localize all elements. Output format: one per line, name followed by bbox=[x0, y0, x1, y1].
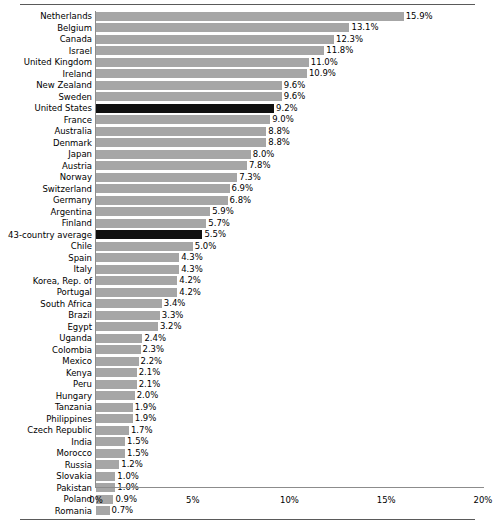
bar-value-label: 9.6% bbox=[282, 91, 306, 103]
bar-track: 9.6% bbox=[96, 81, 495, 92]
chart-row: South Africa3.4% bbox=[0, 299, 495, 311]
bar bbox=[96, 138, 266, 147]
bar-track: 1.5% bbox=[96, 449, 495, 460]
bar bbox=[96, 161, 247, 170]
bar-track: 10.9% bbox=[96, 69, 495, 80]
bar-track: 7.3% bbox=[96, 173, 495, 184]
bar bbox=[96, 115, 270, 124]
bar-track: 3.3% bbox=[96, 311, 495, 322]
bar bbox=[96, 92, 282, 101]
bar-track: 2.1% bbox=[96, 380, 495, 391]
bar-value-label: 5.0% bbox=[193, 241, 217, 253]
bar-value-label: 9.2% bbox=[274, 103, 298, 115]
bar bbox=[96, 357, 139, 366]
category-label: Tanzania bbox=[0, 402, 96, 414]
bar-track: 3.4% bbox=[96, 299, 495, 310]
bar-track: 9.0% bbox=[96, 115, 495, 126]
bar bbox=[96, 150, 251, 159]
bar-value-label: 3.3% bbox=[160, 310, 184, 322]
bar bbox=[96, 207, 210, 216]
chart-row: Australia8.8% bbox=[0, 126, 495, 138]
bar-track: 2.4% bbox=[96, 334, 495, 345]
category-label: Philippines bbox=[0, 414, 96, 426]
chart-row: Argentina5.9% bbox=[0, 207, 495, 219]
chart-row: India1.5% bbox=[0, 437, 495, 449]
x-axis-line bbox=[95, 487, 484, 488]
bar-track: 6.9% bbox=[96, 184, 495, 195]
category-label: Italy bbox=[0, 264, 96, 276]
chart-row: Kenya2.1% bbox=[0, 368, 495, 380]
bar-value-label: 1.0% bbox=[115, 471, 139, 483]
bar-track: 4.2% bbox=[96, 276, 495, 287]
chart-row: Mexico2.2% bbox=[0, 356, 495, 368]
bar-value-label: 8.8% bbox=[266, 137, 290, 149]
bar-track: 2.3% bbox=[96, 345, 495, 356]
bar-value-label: 2.1% bbox=[137, 367, 161, 379]
top-divider-rule bbox=[20, 4, 475, 5]
category-label: Portugal bbox=[0, 287, 96, 299]
bar-track: 15.9% bbox=[96, 12, 495, 23]
category-label: Ireland bbox=[0, 69, 96, 81]
category-label: Switzerland bbox=[0, 184, 96, 196]
category-label: Spain bbox=[0, 253, 96, 265]
bottom-divider-rule bbox=[20, 519, 475, 520]
x-tick-label: 5% bbox=[186, 493, 200, 507]
category-label: South Africa bbox=[0, 299, 96, 311]
bar bbox=[96, 449, 125, 458]
bar bbox=[96, 380, 137, 389]
bar-track: 9.2% bbox=[96, 104, 495, 115]
bar-track: 13.1% bbox=[96, 23, 495, 34]
category-label: Korea, Rep. of bbox=[0, 276, 96, 288]
bar-track: 8.8% bbox=[96, 138, 495, 149]
bar bbox=[96, 276, 177, 285]
category-label: Argentina bbox=[0, 207, 96, 219]
bar-track: 6.8% bbox=[96, 196, 495, 207]
chart-row: Slovakia1.0% bbox=[0, 471, 495, 483]
bar bbox=[96, 334, 142, 343]
category-label: Chile bbox=[0, 241, 96, 253]
chart-row: Italy4.3% bbox=[0, 264, 495, 276]
bar bbox=[96, 242, 193, 251]
bar-value-label: 6.9% bbox=[230, 183, 254, 195]
category-label: Australia bbox=[0, 126, 96, 138]
bar-value-label: 1.5% bbox=[125, 436, 149, 448]
bar bbox=[96, 196, 228, 205]
bar bbox=[96, 35, 334, 44]
chart-row: Ireland10.9% bbox=[0, 69, 495, 81]
bar-value-label: 2.2% bbox=[139, 356, 163, 368]
bar-track: 12.3% bbox=[96, 35, 495, 46]
bar-value-label: 1.9% bbox=[133, 402, 157, 414]
category-label: Russia bbox=[0, 460, 96, 472]
bar-track: 11.8% bbox=[96, 46, 495, 57]
bar-value-label: 3.2% bbox=[158, 321, 182, 333]
category-label: United States bbox=[0, 103, 96, 115]
chart-row: Austria7.8% bbox=[0, 161, 495, 173]
category-label: Germany bbox=[0, 195, 96, 207]
bar-value-label: 12.3% bbox=[334, 34, 363, 46]
chart-row: Israel11.8% bbox=[0, 46, 495, 58]
category-label: Egypt bbox=[0, 322, 96, 334]
bar bbox=[96, 437, 125, 446]
bar-track: 11.0% bbox=[96, 58, 495, 69]
bar-track: 1.7% bbox=[96, 426, 495, 437]
category-label: Uganda bbox=[0, 333, 96, 345]
bar-value-label: 5.5% bbox=[202, 229, 226, 241]
category-label: Austria bbox=[0, 161, 96, 173]
category-label: Czech Republic bbox=[0, 425, 96, 437]
bar bbox=[96, 46, 324, 55]
bar-track: 5.7% bbox=[96, 219, 495, 230]
bar-track: 4.2% bbox=[96, 288, 495, 299]
bar-track: 1.2% bbox=[96, 460, 495, 471]
bar-track: 2.2% bbox=[96, 357, 495, 368]
bar bbox=[96, 345, 141, 354]
bar-value-label: 9.6% bbox=[282, 80, 306, 92]
chart-row: Hungary2.0% bbox=[0, 391, 495, 403]
bar-value-label: 4.3% bbox=[179, 264, 203, 276]
category-label: Denmark bbox=[0, 138, 96, 150]
chart-row: New Zealand9.6% bbox=[0, 80, 495, 92]
bar bbox=[96, 403, 133, 412]
bar-track: 3.2% bbox=[96, 322, 495, 333]
bar-track: 5.0% bbox=[96, 242, 495, 253]
bar-track: 4.3% bbox=[96, 265, 495, 276]
bar-value-label: 4.2% bbox=[177, 275, 201, 287]
